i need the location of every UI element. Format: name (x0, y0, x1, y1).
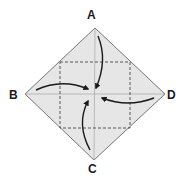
label-a: A (87, 9, 96, 21)
origami-diagram (0, 0, 184, 189)
label-d: D (167, 89, 176, 101)
label-b: B (9, 89, 18, 101)
label-c: C (88, 163, 97, 175)
